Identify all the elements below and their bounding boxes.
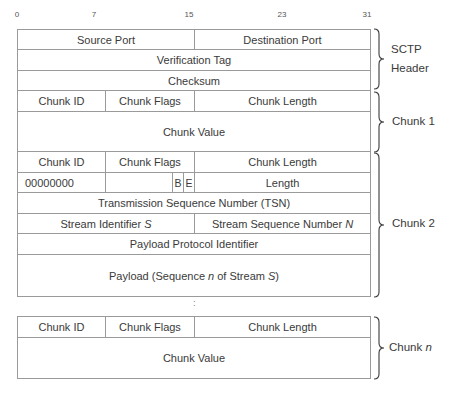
payload-label-mid: of Stream [214,270,268,282]
tsn-field: Transmission Sequence Number (TSN) [17,192,371,214]
chunk2-type-value: 00000000 [17,172,106,193]
stream-sequence-var: N [345,218,353,230]
chunk1-length-field: Chunk Length [194,90,371,112]
chunk1-id-field: Chunk ID [17,90,106,112]
destination-port-field: Destination Port [194,29,371,50]
chunk2-flags-field: Chunk Flags [105,151,195,173]
chunkn-value-field: Chunk Value [17,337,371,379]
payload-var-s: S [268,270,275,282]
bit-tick-23: 23 [278,10,287,19]
payload-label-prefix: Payload (Sequence [109,270,208,282]
chunkn-brace-icon [372,316,386,380]
sctp-header-brace-icon [372,28,386,90]
chunkn-label-prefix: Chunk [389,341,425,353]
chunkn-length-field: Chunk Length [194,316,371,338]
bit-tick-0: 0 [15,10,19,19]
chunk2-length-value: Length [194,172,371,193]
stream-identifier-field: Stream Identifier S [17,213,195,234]
sctp-label-line2: Header [391,59,429,78]
ellipsis-separator: : [193,301,196,305]
sctp-label-line1: SCTP [391,40,429,59]
chunkn-flags-field: Chunk Flags [105,316,195,338]
payload-protocol-identifier-field: Payload Protocol Identifier [17,233,371,255]
payload-label-suffix: ) [275,270,279,282]
payload-field: Payload (Sequence n of Stream S) [17,254,371,297]
chunk2-id-field: Chunk ID [17,151,106,173]
checksum-field: Checksum [17,70,371,91]
source-port-field: Source Port [17,29,195,50]
chunkn-label: Chunk n [389,338,432,357]
bit-tick-7: 7 [92,10,96,19]
stream-sequence-label: Stream Sequence Number [212,218,345,230]
chunk2-length-field: Chunk Length [194,151,371,173]
stream-identifier-label: Stream Identifier [60,218,144,230]
chunk1-brace-icon [372,91,386,153]
verification-tag-field: Verification Tag [17,49,371,71]
chunkn-label-var: n [425,341,431,353]
bit-tick-15: 15 [185,10,194,19]
chunk1-label: Chunk 1 [392,112,435,131]
chunk1-value-field: Chunk Value [17,111,371,152]
stream-sequence-number-field: Stream Sequence Number N [194,213,371,234]
chunk2-brace-icon [372,152,386,298]
chunk2-reserved-flags [105,172,173,193]
stream-identifier-var: S [144,218,151,230]
chunkn-id-field: Chunk ID [17,316,106,338]
sctp-header-label: SCTP Header [391,40,429,78]
chunk2-label: Chunk 2 [392,214,435,233]
chunk1-flags-field: Chunk Flags [105,90,195,112]
bit-tick-31: 31 [363,10,372,19]
